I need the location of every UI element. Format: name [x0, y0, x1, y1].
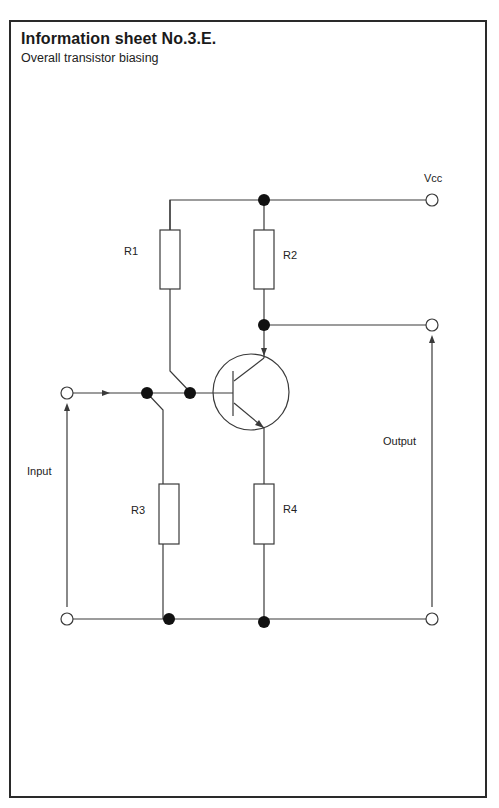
- label-r2: R2: [283, 249, 297, 261]
- junction-r3-ground: [163, 613, 175, 625]
- resistor-r4: [254, 484, 274, 544]
- terminal-input-ground: [61, 613, 73, 625]
- junction-vcc: [258, 194, 270, 206]
- resistors: [159, 230, 274, 544]
- transistor-envelope: [213, 354, 289, 430]
- circuit-diagram: Vcc R1 R2 R3 R4 Input Output: [0, 0, 499, 808]
- resistor-r2: [254, 230, 274, 289]
- junction-r4-ground: [258, 616, 270, 628]
- label-output: Output: [383, 435, 416, 447]
- r1-bottom-lead: [170, 289, 191, 393]
- vcc-rail-wire: [170, 200, 426, 289]
- label-r1: R1: [124, 245, 138, 257]
- input-current-arrow-icon: [102, 390, 110, 396]
- junction-r1-base: [184, 387, 196, 399]
- terminal-input: [61, 387, 73, 399]
- junction-r3-base: [141, 387, 153, 399]
- junction-collector: [258, 319, 270, 331]
- input-arrow-icon: [64, 403, 70, 411]
- output-arrow-icon: [429, 335, 435, 343]
- terminal-vcc: [426, 194, 438, 206]
- label-r3: R3: [131, 504, 145, 516]
- terminal-output-ground: [426, 613, 438, 625]
- wires: [67, 200, 432, 622]
- npn-transistor: [213, 354, 289, 430]
- collector-current-arrow-icon: [261, 348, 267, 356]
- r3-top-lead: [147, 393, 163, 485]
- label-vcc: Vcc: [424, 172, 443, 184]
- transistor-collector: [234, 358, 264, 381]
- terminals: [61, 194, 438, 625]
- label-input: Input: [27, 465, 51, 477]
- resistor-r1: [160, 230, 180, 289]
- label-r4: R4: [283, 503, 297, 515]
- resistor-r3: [159, 484, 179, 544]
- arrowheads: [64, 335, 435, 411]
- terminal-output: [426, 319, 438, 331]
